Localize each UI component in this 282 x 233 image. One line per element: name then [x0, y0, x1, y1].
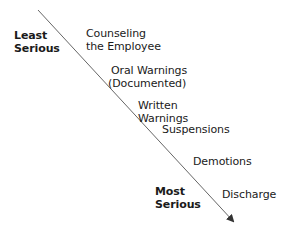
step-label-line1: Suspensions: [162, 123, 230, 136]
step-suspensions: Suspensions: [162, 123, 230, 136]
most-serious-line1: Most: [155, 185, 201, 198]
step-demotions: Demotions: [193, 155, 252, 168]
step-label-line1: Oral Warnings: [108, 64, 187, 77]
step-label-line2: the Employee: [86, 40, 161, 53]
most-serious-line2: Serious: [155, 198, 201, 211]
step-label-line2: (Documented): [108, 77, 187, 90]
step-label-line1: Counseling: [86, 27, 161, 40]
least-serious-line1: Least: [14, 29, 60, 42]
step-discharge: Discharge: [222, 188, 276, 201]
step-oral-warnings: Oral Warnings (Documented): [108, 64, 187, 90]
most-serious-label: Most Serious: [155, 185, 201, 211]
step-counseling: Counseling the Employee: [86, 27, 161, 53]
step-label-line1: Demotions: [193, 155, 252, 168]
least-serious-line2: Serious: [14, 42, 60, 55]
discipline-severity-diagram: Least Serious Counseling the Employee Or…: [0, 0, 282, 233]
least-serious-label: Least Serious: [14, 29, 60, 55]
step-label-line1: Written: [138, 99, 188, 112]
step-written-warnings: Written Warnings: [138, 99, 188, 125]
step-label-line1: Discharge: [222, 188, 276, 201]
